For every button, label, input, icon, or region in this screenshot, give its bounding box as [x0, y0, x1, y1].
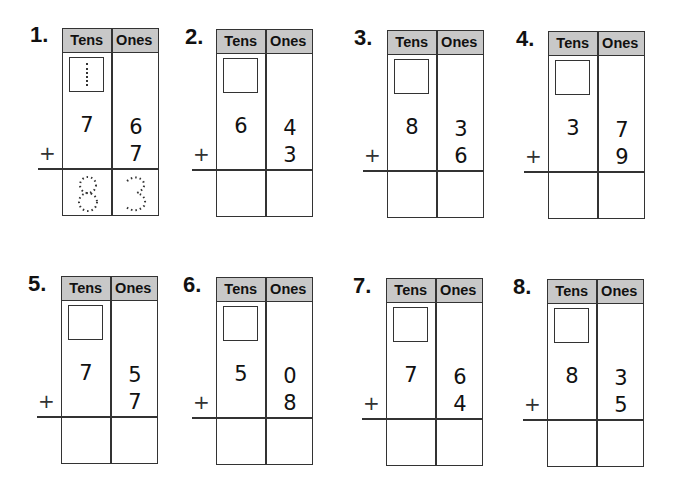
- top-tens-digit: 6: [217, 114, 265, 138]
- top-ones-digit: 4: [266, 116, 314, 140]
- top-ones-digit: 3: [437, 117, 485, 141]
- ones-header: Ones: [435, 279, 483, 302]
- plus-sign: +: [193, 142, 210, 166]
- answer-tens-cell[interactable]: [217, 419, 265, 465]
- plus-sign: +: [193, 390, 210, 414]
- problem-number: 8.: [513, 274, 531, 300]
- carry-box[interactable]: [394, 59, 429, 94]
- sum-line: [192, 417, 313, 419]
- answer-ones-cell[interactable]: [111, 418, 157, 464]
- problem-number: 1.: [30, 22, 48, 48]
- ones-header: Ones: [265, 278, 313, 301]
- sum-line: [37, 416, 158, 418]
- plus-sign: +: [364, 143, 381, 167]
- carry-box[interactable]: [223, 306, 258, 341]
- tens-header: Tens: [549, 32, 597, 55]
- problem-number: 2.: [185, 24, 203, 50]
- top-ones-digit: 3: [597, 366, 645, 390]
- addend-ones-digit: 7: [111, 390, 159, 414]
- ones-header: Ones: [436, 31, 484, 54]
- sum-line: [524, 171, 645, 173]
- top-ones-digit: 6: [436, 365, 484, 389]
- problem-number: 3.: [354, 25, 372, 51]
- problem-number: 6.: [183, 272, 201, 298]
- problem-number: 7.: [353, 273, 371, 299]
- answer-ones-cell[interactable]: [597, 421, 643, 467]
- answer-tens-cell[interactable]: [387, 420, 435, 466]
- ones-header: Ones: [111, 29, 159, 52]
- answer-tens-cell[interactable]: [388, 172, 436, 218]
- sum-line: [362, 418, 483, 420]
- answer-ones-cell[interactable]: [437, 172, 483, 218]
- answer-tens-cell[interactable]: [62, 418, 110, 464]
- place-value-table: Tens Ones 6 4 3: [216, 29, 313, 217]
- tens-header: Tens: [387, 279, 435, 302]
- top-tens-digit: 5: [217, 362, 265, 386]
- answer-ones-cell[interactable]: [598, 173, 644, 219]
- plus-sign: +: [525, 144, 542, 168]
- ones-header: Ones: [597, 32, 645, 55]
- answer-tens-cell[interactable]: [548, 421, 596, 467]
- tens-header: Tens: [63, 29, 111, 52]
- tens-header: Tens: [388, 31, 436, 54]
- top-ones-digit: 7: [598, 118, 646, 142]
- traced-one-hint: [86, 63, 88, 86]
- addend-ones-digit: 5: [597, 393, 645, 417]
- place-value-table: Tens Ones 8 3 6: [387, 30, 484, 218]
- carry-box[interactable]: [223, 58, 258, 93]
- top-tens-digit: 7: [62, 361, 110, 385]
- plus-sign: +: [524, 392, 541, 416]
- carry-box[interactable]: [69, 57, 104, 92]
- addend-ones-digit: 8: [266, 391, 314, 415]
- top-tens-digit: 7: [63, 113, 111, 137]
- sum-line: [363, 170, 484, 172]
- top-tens-digit: 3: [549, 116, 597, 140]
- sum-line: [38, 168, 159, 170]
- ones-header: Ones: [596, 280, 644, 303]
- addend-ones-digit: 6: [437, 144, 485, 168]
- sum-line: [192, 169, 313, 171]
- sum-line: [523, 419, 644, 421]
- plus-sign: +: [39, 141, 56, 165]
- top-tens-digit: 8: [548, 364, 596, 388]
- answer-ones-cell[interactable]: [266, 171, 312, 217]
- top-ones-digit: 5: [111, 363, 159, 387]
- plus-sign: +: [38, 389, 55, 413]
- answer-tens-cell[interactable]: [549, 173, 597, 219]
- top-ones-digit: 6: [112, 115, 160, 139]
- tens-header: Tens: [217, 30, 265, 53]
- place-value-table: Tens Ones 8 3 5: [547, 279, 644, 467]
- addend-ones-digit: 7: [112, 142, 160, 166]
- traced-answer-ones: [121, 175, 151, 213]
- place-value-table: Tens Ones 7 6 4: [386, 278, 483, 466]
- answer-ones-cell[interactable]: [436, 420, 482, 466]
- top-ones-digit: 0: [266, 364, 314, 388]
- addend-ones-digit: 3: [266, 143, 314, 167]
- carry-box[interactable]: [555, 60, 590, 95]
- place-value-table: Tens Ones 3 7 9: [548, 31, 645, 219]
- tens-header: Tens: [62, 277, 110, 300]
- place-value-table: Tens Ones 7 5 7: [61, 276, 158, 464]
- top-tens-digit: 7: [387, 363, 435, 387]
- tens-header: Tens: [217, 278, 265, 301]
- addend-ones-digit: 4: [436, 392, 484, 416]
- addend-ones-digit: 9: [598, 145, 646, 169]
- problem-number: 5.: [28, 271, 46, 297]
- place-value-table: Tens Ones 5 0 8: [216, 277, 313, 465]
- plus-sign: +: [363, 391, 380, 415]
- answer-tens-cell[interactable]: [217, 171, 265, 217]
- place-value-table: Tens Ones 7 6 7: [62, 28, 159, 216]
- carry-box[interactable]: [68, 305, 103, 340]
- ones-header: Ones: [265, 30, 313, 53]
- tens-header: Tens: [548, 280, 596, 303]
- ones-header: Ones: [110, 277, 158, 300]
- carry-box[interactable]: [554, 308, 589, 343]
- traced-answer-tens: [73, 175, 103, 213]
- top-tens-digit: 8: [388, 115, 436, 139]
- problem-number: 4.: [516, 26, 534, 52]
- carry-box[interactable]: [393, 307, 428, 342]
- answer-ones-cell[interactable]: [266, 419, 312, 465]
